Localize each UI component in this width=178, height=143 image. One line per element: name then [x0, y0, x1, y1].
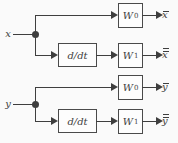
arrowhead-right-icon [111, 117, 118, 125]
output-letter: y [162, 81, 168, 92]
arrowhead-right-icon [51, 117, 58, 125]
wire-w0-output [142, 87, 156, 88]
arrowhead-right-icon [111, 83, 118, 91]
input-label-y: y [3, 97, 13, 111]
w1-subscript: 1 [134, 118, 138, 126]
ddt-block: d/dt [58, 109, 97, 133]
wire-ddt-to-w1 [96, 121, 111, 122]
w1-block: W1 [118, 109, 143, 134]
w0-block: W0 [118, 75, 143, 100]
wire-w1-output [142, 121, 156, 122]
wire-branch-vertical [35, 87, 36, 122]
w0-label: W [123, 82, 133, 93]
output-label-y-double-bar: y [162, 113, 174, 130]
ddt-label: d/dt [67, 116, 87, 127]
w0-subscript: 0 [134, 84, 138, 92]
wire-to-ddt [36, 121, 51, 122]
wire-input [13, 104, 34, 105]
diagram-y-channel: y d/dt W0 W1 y y [0, 0, 178, 143]
wire-to-w0 [36, 87, 111, 88]
block-diagram-canvas: x d/dt W0 W1 x x y d/d [0, 0, 178, 143]
w1-label: W [123, 116, 133, 127]
output-label-y-bar: y [162, 79, 174, 96]
output-letter: y [162, 115, 168, 126]
